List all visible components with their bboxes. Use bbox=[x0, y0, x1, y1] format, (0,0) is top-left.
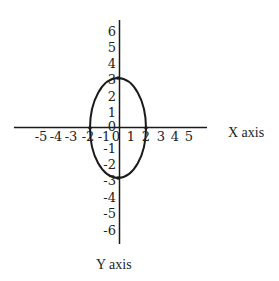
y-tick: -4 bbox=[103, 190, 116, 205]
intercept-point bbox=[116, 76, 120, 80]
x-tick: -2 bbox=[82, 129, 95, 144]
y-tick: 6 bbox=[108, 24, 116, 39]
y-tick: -6 bbox=[103, 223, 116, 238]
y-tick: -2 bbox=[103, 157, 116, 172]
x-tick: 5 bbox=[185, 129, 193, 144]
y-tick: 5 bbox=[108, 40, 116, 55]
y-tick: 3 bbox=[108, 72, 116, 87]
intercept-point bbox=[116, 176, 120, 180]
y-tick: 4 bbox=[108, 56, 116, 71]
y-tick: -5 bbox=[103, 206, 116, 221]
x-tick: -5 bbox=[35, 129, 48, 144]
x-tick: 2 bbox=[142, 129, 150, 144]
x-axis-title: X axis bbox=[228, 125, 264, 140]
origin-label: 0 bbox=[108, 119, 116, 134]
x-tick: 3 bbox=[157, 129, 165, 144]
x-tick: -4 bbox=[50, 129, 63, 144]
y-tick: 2 bbox=[108, 89, 116, 104]
y-axis-title: Y axis bbox=[96, 257, 132, 272]
y-tick: -3 bbox=[103, 173, 116, 188]
y-tick: 1 bbox=[108, 105, 116, 120]
coordinate-plane-diagram: -5 -4 -3 -2 -1 0 1 2 3 4 5 6 5 4 3 2 1 0… bbox=[0, 0, 279, 281]
x-tick: -3 bbox=[65, 129, 78, 144]
x-tick: 4 bbox=[171, 129, 179, 144]
x-tick: 1 bbox=[127, 129, 135, 144]
y-tick: -1 bbox=[103, 141, 116, 156]
